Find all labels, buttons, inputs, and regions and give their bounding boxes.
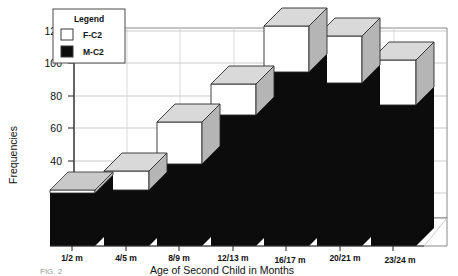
y-axis-title: Frequencies	[7, 126, 19, 184]
bar-group-4-5m[interactable]	[104, 153, 167, 246]
figure-caption: FIG. 2	[40, 267, 63, 276]
legend-label-f-c2: F-C2	[83, 30, 102, 40]
legend-label-m-c2: M-C2	[83, 47, 104, 57]
bar-group-23-24m[interactable]	[371, 42, 434, 246]
x-tick-3: 12/13 m	[217, 253, 249, 263]
legend-item-m-c2[interactable]: M-C2	[61, 46, 104, 57]
stacked-bar-chart-svg: 120 100 80 60 40 20 0 Frequencies	[0, 0, 458, 276]
x-tick-0: 1/2 m	[61, 253, 83, 263]
x-tick-5: 20/21 m	[329, 253, 361, 263]
x-tick-1: 4/5 m	[115, 253, 137, 263]
y-tick-80: 80	[50, 90, 62, 102]
bar-group-1-2m[interactable]	[50, 172, 113, 246]
y-tick-40: 40	[50, 155, 62, 167]
x-tick-2: 8/9 m	[168, 253, 190, 263]
x-axis: 1/2 m 4/5 m 8/9 m 12/13 m 16/17 m 20/21 …	[50, 246, 424, 276]
y-tick-60: 60	[50, 122, 62, 134]
bar-group-12-13m[interactable]	[211, 66, 274, 246]
legend-title: Legend	[74, 14, 104, 24]
x-tick-6: 23/24 m	[384, 255, 416, 265]
chart-figure: 120 100 80 60 40 20 0 Frequencies	[0, 0, 458, 276]
x-axis-title: Age of Second Child in Months	[150, 264, 294, 276]
legend[interactable]: Legend F-C2 M-C2	[53, 9, 125, 63]
